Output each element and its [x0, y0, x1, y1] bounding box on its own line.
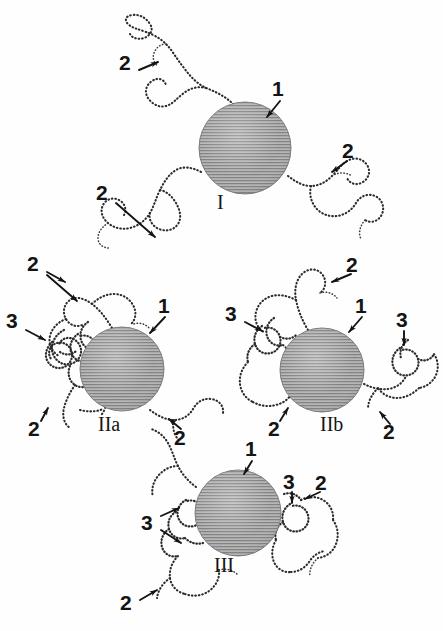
label-2-structure-III-a: 2 [315, 472, 326, 493]
label-1-structure-III: 1 [245, 438, 256, 459]
label-2-structure-IIa-d: 2 [174, 427, 185, 448]
label-2-structure-IIb-d: 2 [383, 421, 394, 442]
structure-IIb [240, 270, 438, 425]
label-2-structure-IIa-a: 2 [27, 253, 38, 274]
label-2-structure-IIa-c: 2 [28, 418, 39, 439]
label-2-structure-III-c: 2 [120, 592, 131, 613]
label-3-structure-III-b: 3 [141, 512, 152, 533]
caption-structure-IIb: IIb [320, 414, 343, 434]
structure-IIa [26, 272, 223, 441]
label-3-structure-IIb-a: 3 [225, 303, 236, 324]
polymer-adsorption-figure: .chain{fill:none;stroke:#2b2b2b;stroke-w… [0, 0, 443, 631]
figure-canvas: .chain{fill:none;stroke:#2b2b2b;stroke-w… [0, 0, 443, 631]
label-2-structure-IIb-a: 2 [346, 254, 357, 275]
label-2-structure-I-b: 2 [96, 182, 107, 203]
label-3-structure-IIa: 3 [6, 310, 17, 331]
label-1-structure-IIb: 1 [355, 295, 366, 316]
label-2-structure-IIb-c: 2 [268, 418, 279, 439]
label-1-structure-IIa: 1 [158, 295, 169, 316]
caption-structure-IIa: IIa [98, 414, 120, 434]
structure-I [98, 15, 383, 248]
caption-structure-III: III [214, 555, 234, 575]
structure-III [140, 429, 338, 600]
label-1-structure-I: 1 [272, 78, 283, 99]
label-3-structure-IIb-b: 3 [396, 309, 407, 330]
dense-coil-IIb-right [392, 340, 434, 376]
label-3-structure-III-a: 3 [283, 471, 294, 492]
label-2-structure-I-c: 2 [342, 140, 353, 161]
label-2-structure-I-a: 2 [119, 52, 130, 73]
caption-structure-I: I [217, 192, 224, 212]
